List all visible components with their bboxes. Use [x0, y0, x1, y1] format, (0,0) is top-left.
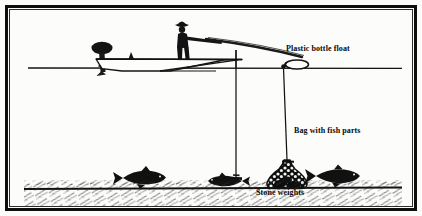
diagram-scene: [10, 10, 412, 206]
label-stone-weights: Stone weights: [256, 188, 304, 197]
plastic-bottle-float-icon: [281, 60, 308, 69]
figure-diagram: Plastic bottle float Bag with fish parts…: [0, 0, 422, 216]
hatched-seabed: [24, 180, 402, 206]
label-plastic-bottle-float: Plastic bottle float: [286, 44, 350, 53]
diagram-canvas: [10, 10, 412, 206]
label-bag-with-fish-parts: Bag with fish parts: [294, 126, 361, 135]
bag-tether-line: [284, 68, 288, 160]
